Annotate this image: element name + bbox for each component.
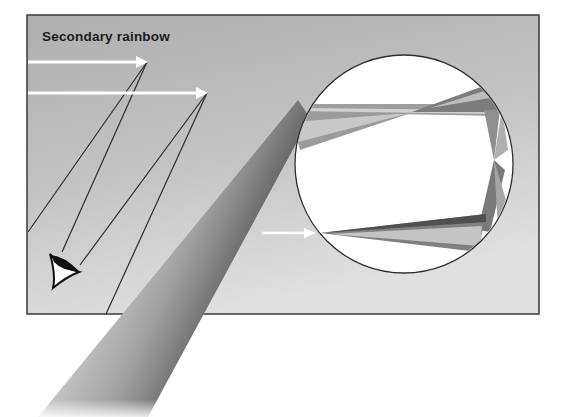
secondary-rainbow-diagram: Secondary rainbow [0,0,567,417]
diagram-canvas [0,0,567,417]
figure-title: Secondary rainbow [42,29,170,44]
